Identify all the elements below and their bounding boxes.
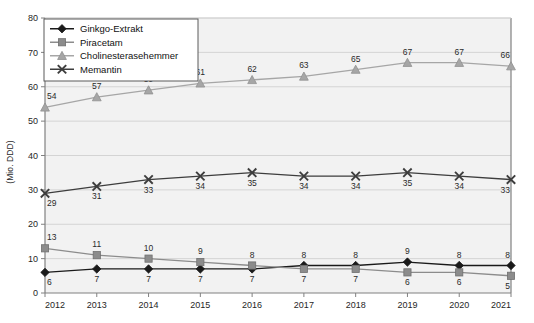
data-label: 66 xyxy=(501,50,511,60)
legend-item-label: Ginkgo-Extrakt xyxy=(80,23,143,34)
marker-square xyxy=(249,262,256,269)
data-label: 7 xyxy=(198,274,203,284)
marker-square xyxy=(41,245,48,252)
data-label: 7 xyxy=(353,274,358,284)
data-label: 10 xyxy=(144,243,154,253)
data-label: 5 xyxy=(505,281,510,291)
y-axis-ticks: 01020304050607080 xyxy=(28,13,45,298)
y-tick-label: 30 xyxy=(28,185,38,195)
y-tick-label: 60 xyxy=(28,82,38,92)
y-tick-label: 40 xyxy=(28,151,38,161)
y-tick-label: 70 xyxy=(28,48,38,58)
y-tick-label: 0 xyxy=(33,288,38,298)
chart-canvas: 01020304050607080 2012201320142015201620… xyxy=(0,0,534,323)
data-label: 35 xyxy=(247,178,257,188)
x-tick-label: 2012 xyxy=(45,300,65,310)
marker-square xyxy=(197,258,204,265)
legend-item-label: Memantin xyxy=(80,64,122,75)
line-chart: (Mio. DDD) 01020304050607080 20122013201… xyxy=(0,0,534,323)
data-label: 13 xyxy=(47,232,57,242)
y-tick-label: 80 xyxy=(28,13,38,23)
marker-square xyxy=(404,269,411,276)
data-label: 8 xyxy=(302,250,307,260)
data-label: 11 xyxy=(92,239,101,249)
data-label: 7 xyxy=(146,274,151,284)
data-label: 8 xyxy=(353,250,358,260)
data-label: 7 xyxy=(302,274,307,284)
data-label: 67 xyxy=(403,47,413,57)
marker-square xyxy=(507,272,514,279)
marker-square xyxy=(300,265,307,272)
x-tick-label: 2016 xyxy=(242,300,262,310)
data-label: 31 xyxy=(92,191,102,201)
x-tick-label: 2015 xyxy=(190,300,210,310)
x-tick-label: 2018 xyxy=(346,300,366,310)
data-label: 67 xyxy=(454,47,464,57)
data-label: 7 xyxy=(250,274,255,284)
data-label: 6 xyxy=(457,277,462,287)
data-label: 54 xyxy=(47,91,57,101)
x-tick-label: 2019 xyxy=(397,300,417,310)
marker-square xyxy=(352,265,359,272)
data-label: 9 xyxy=(405,246,410,256)
data-label: 29 xyxy=(47,198,57,208)
data-label: 57 xyxy=(92,81,102,91)
marker-square xyxy=(93,252,100,259)
data-label: 62 xyxy=(247,64,257,74)
data-label: 9 xyxy=(198,246,203,256)
data-label: 8 xyxy=(505,250,510,260)
x-tick-label: 2017 xyxy=(294,300,314,310)
chart-legend: Ginkgo-ExtraktPiracetamCholinesterasehem… xyxy=(44,19,198,81)
x-axis-ticks: 2012201320142015201620172018201920202021 xyxy=(45,293,511,310)
data-label: 34 xyxy=(351,181,361,191)
data-label: 8 xyxy=(250,250,255,260)
x-tick-label: 2013 xyxy=(87,300,107,310)
data-label: 34 xyxy=(196,181,206,191)
data-label: 6 xyxy=(47,277,52,287)
marker-square xyxy=(145,255,152,262)
data-label: 35 xyxy=(403,178,413,188)
data-label: 33 xyxy=(501,185,511,195)
data-label: 7 xyxy=(94,274,99,284)
data-label: 8 xyxy=(457,250,462,260)
y-tick-label: 10 xyxy=(28,254,38,264)
marker-square xyxy=(456,269,463,276)
x-tick-label: 2021 xyxy=(491,300,511,310)
legend-item-label: Cholinesterasehemmer xyxy=(80,50,178,61)
y-tick-label: 50 xyxy=(28,116,38,126)
y-tick-label: 20 xyxy=(28,219,38,229)
marker-square xyxy=(58,39,65,46)
data-label: 6 xyxy=(405,277,410,287)
data-label: 34 xyxy=(299,181,309,191)
x-tick-label: 2014 xyxy=(139,300,159,310)
data-label: 33 xyxy=(144,185,154,195)
data-label: 63 xyxy=(299,60,309,70)
legend-item-label: Piracetam xyxy=(80,37,123,48)
data-label: 65 xyxy=(351,54,361,64)
x-tick-label: 2020 xyxy=(449,300,469,310)
data-label: 34 xyxy=(454,181,464,191)
